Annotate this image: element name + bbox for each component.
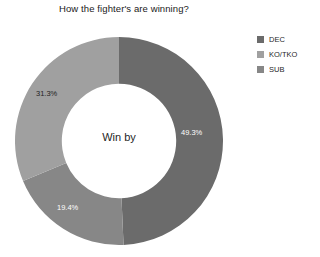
legend-item-kotko[interactable]: KO/TKO	[257, 48, 317, 61]
slice-sub[interactable]	[23, 163, 124, 245]
chart-title: How the fighter's are winning?	[0, 3, 248, 14]
legend-item-sub[interactable]: SUB	[257, 63, 317, 76]
slice-kotko[interactable]	[15, 37, 119, 181]
legend-item-dec[interactable]: DEC	[257, 33, 317, 46]
legend-label: KO/TKO	[269, 51, 297, 59]
legend-swatch-icon	[257, 66, 264, 73]
donut-chart: How the fighter's are winning? Win by 49…	[0, 0, 320, 257]
legend-label: DEC	[269, 36, 285, 44]
donut-plot-area	[14, 36, 224, 246]
donut-svg	[14, 36, 224, 246]
legend-label: SUB	[269, 66, 284, 74]
chart-legend: DEC KO/TKO SUB	[257, 33, 317, 78]
slice-dec[interactable]	[119, 37, 223, 245]
legend-swatch-icon	[257, 36, 264, 43]
legend-swatch-icon	[257, 51, 264, 58]
